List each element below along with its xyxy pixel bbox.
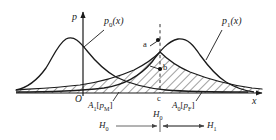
origin-label: O xyxy=(75,95,82,105)
hypothesis-label-h0-left: H0 xyxy=(99,121,109,132)
point-a-leader xyxy=(150,41,158,46)
point-label-c: c xyxy=(157,94,161,103)
curve-label-p1: p1(x) xyxy=(222,16,242,29)
p0-label-leader xyxy=(84,30,104,47)
area-label-a1: A1[pM] xyxy=(88,101,113,112)
h0-left-subscript: 0 xyxy=(106,126,109,132)
hypothesis-label-h0-center: H0 xyxy=(153,110,163,121)
x-axis-label: x xyxy=(252,96,256,106)
curve-label-p1-arg: (x) xyxy=(230,15,241,26)
h0-center-subscript: 0 xyxy=(160,115,163,121)
h1-right-subscript: 1 xyxy=(214,126,217,132)
area-label-a1-bracket-close: ] xyxy=(110,100,113,110)
area-label-a0-bracket-close: ] xyxy=(191,100,194,110)
point-label-b: b xyxy=(163,63,167,72)
y-axis-label: p xyxy=(72,12,77,22)
curve-label-p0: p0(x) xyxy=(104,16,124,29)
curve-label-p0-arg: (x) xyxy=(112,15,123,26)
probability-density-figure: p x O p0(x) p1(x) a b c A1[pM] A0[pF] H0… xyxy=(0,0,276,140)
hypothesis-label-h1-right: H1 xyxy=(207,121,217,132)
area-label-a0: A0[pF] xyxy=(172,101,194,112)
overlap-hatched-region xyxy=(16,52,262,93)
point-label-a: a xyxy=(143,40,147,49)
p1-label-leader xyxy=(206,30,222,60)
